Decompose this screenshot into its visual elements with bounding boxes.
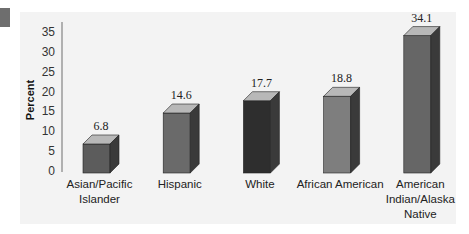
bar-front [163,113,190,173]
bar-side [351,87,360,173]
category-label: Asian/Pacific [67,178,133,190]
y-tick-label: 35 [42,25,56,39]
y-tick-label: 20 [42,85,56,99]
value-label: 34.1 [411,11,432,25]
bar [163,104,199,173]
y-tick-label: 25 [42,65,56,79]
y-tick-labels: 05101520253035 [42,25,56,178]
y-tick-label: 0 [48,164,55,178]
y-tick-label: 15 [42,104,56,118]
value-label: 18.8 [331,71,352,85]
bars [83,27,440,173]
bar [324,87,360,173]
bar [83,135,119,173]
value-label: 6.8 [94,119,109,133]
value-label: 17.7 [251,76,272,90]
category-label: Islander [79,193,120,205]
value-label: 14.6 [171,88,192,102]
bar-side [270,92,279,173]
category-label: Indian/Alaska [386,193,456,205]
bar [243,92,279,173]
y-axis-label: Percent [24,79,36,120]
bar-front [404,36,431,173]
category-label: Native [404,208,437,220]
y-tick-label: 5 [48,144,55,158]
y-tick-label: 10 [42,124,56,138]
category-labels: Asian/PacificIslanderHispanicWhiteAfrica… [67,178,456,220]
y-tick-label: 30 [42,45,56,59]
bar-side [190,104,199,173]
bar [404,27,440,173]
bar-front [83,144,110,173]
bar-side [431,27,440,173]
bar-front [243,101,270,173]
category-label: American [396,178,445,190]
category-label: White [245,178,274,190]
bar-front [324,96,351,173]
category-label: African American [297,178,384,190]
category-label: Hispanic [158,178,202,190]
bar-chart: Percent 05101520253035 6.814.617.718.834… [0,0,469,234]
